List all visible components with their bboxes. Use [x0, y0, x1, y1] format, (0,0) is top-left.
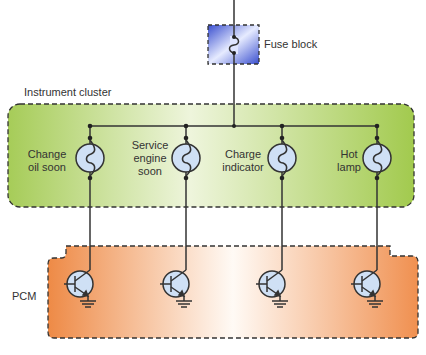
- circuit-diagram: [0, 0, 426, 355]
- fuse-block-label: Fuse block: [264, 38, 317, 51]
- pcm-label: PCM: [12, 290, 36, 303]
- lamp-label-change-oil: Change oil soon: [22, 148, 72, 174]
- bulb-icon: [172, 144, 200, 172]
- lamp-label-service-engine: Service engine soon: [128, 139, 172, 178]
- fuse-icon: [230, 35, 239, 55]
- lamp-label-hot: Hot lamp: [334, 148, 364, 174]
- junction-dot: [232, 124, 236, 128]
- instrument-cluster-label: Instrument cluster: [24, 86, 111, 99]
- bulb-icon: [268, 144, 296, 172]
- bulb-icon: [363, 144, 391, 172]
- lamp-label-charge-indicator: Charge indicator: [218, 148, 268, 174]
- bulb-icon: [76, 144, 104, 172]
